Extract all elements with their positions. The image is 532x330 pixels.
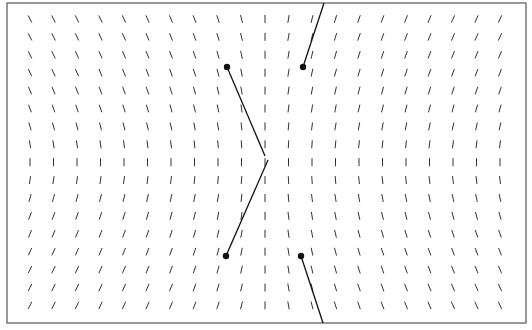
slope-dash bbox=[311, 266, 313, 274]
slope-dash bbox=[193, 15, 196, 22]
slope-dash bbox=[75, 51, 78, 58]
slope-dash bbox=[498, 33, 501, 40]
slope-dash bbox=[428, 284, 431, 291]
slope-dash bbox=[28, 248, 31, 255]
slope-dash bbox=[122, 51, 125, 58]
slope-dash bbox=[312, 122, 313, 130]
slope-dash bbox=[405, 51, 408, 59]
slope-dash bbox=[288, 105, 289, 113]
slope-dash bbox=[99, 123, 101, 131]
slope-dash bbox=[193, 266, 196, 274]
slope-dash bbox=[241, 194, 242, 202]
slope-dash bbox=[123, 87, 126, 95]
slope-dash bbox=[358, 33, 361, 41]
slope-dash bbox=[428, 248, 431, 256]
slope-dash bbox=[451, 302, 454, 309]
slope-dash bbox=[288, 284, 289, 292]
slope-dash bbox=[99, 212, 102, 220]
slope-dash bbox=[28, 15, 32, 22]
slope-dash bbox=[405, 302, 408, 309]
slope-dash bbox=[147, 194, 149, 202]
slope-dash bbox=[193, 69, 195, 77]
slope-dash bbox=[217, 105, 219, 113]
slope-dash bbox=[193, 284, 196, 292]
slope-dash bbox=[334, 266, 336, 274]
slope-dash bbox=[123, 248, 126, 255]
slope-dash bbox=[170, 248, 173, 256]
slope-dash bbox=[99, 230, 102, 237]
slope-dash bbox=[358, 51, 360, 59]
slope-dash bbox=[453, 140, 454, 148]
slope-dash bbox=[475, 87, 478, 95]
slope-dash bbox=[288, 87, 289, 95]
slope-dash bbox=[217, 15, 219, 23]
slope-dash bbox=[405, 69, 408, 77]
slope-dash bbox=[217, 122, 218, 130]
slope-dash bbox=[406, 140, 407, 148]
slope-dash bbox=[28, 230, 31, 237]
slope-dash bbox=[498, 302, 501, 309]
slope-dash bbox=[500, 140, 501, 148]
slope-dash bbox=[171, 176, 172, 184]
slope-dash bbox=[334, 284, 336, 292]
slope-dash bbox=[311, 302, 313, 310]
slope-dash bbox=[358, 248, 360, 256]
slope-dash bbox=[29, 140, 30, 148]
slope-dash bbox=[75, 302, 79, 309]
slope-dash bbox=[99, 194, 101, 202]
slope-dash bbox=[381, 302, 384, 309]
slope-dash bbox=[381, 15, 384, 22]
slope-dash bbox=[193, 51, 196, 59]
slope-dash bbox=[311, 87, 313, 95]
slope-dash bbox=[288, 266, 289, 274]
slope-dash bbox=[475, 230, 478, 238]
trajectory-line bbox=[227, 67, 265, 156]
slope-dash bbox=[75, 33, 79, 40]
initial-point-dot bbox=[298, 253, 304, 259]
slope-dash bbox=[52, 194, 54, 202]
slope-dash bbox=[170, 69, 173, 77]
direction-field-diagram bbox=[0, 0, 532, 330]
slope-dash bbox=[52, 212, 55, 220]
slope-dash bbox=[334, 69, 336, 77]
slope-dash bbox=[452, 212, 454, 220]
slope-dash bbox=[358, 302, 361, 310]
slope-dash bbox=[28, 69, 31, 76]
slope-dash bbox=[429, 194, 431, 202]
slope-dash bbox=[241, 87, 242, 95]
slope-dash bbox=[52, 302, 56, 309]
slope-dash bbox=[194, 176, 195, 184]
slope-dash bbox=[146, 51, 149, 58]
slope-dash bbox=[499, 87, 502, 95]
slope-dash bbox=[358, 15, 361, 23]
slope-dash bbox=[451, 33, 454, 40]
initial-point-dot bbox=[223, 253, 229, 259]
slope-dash bbox=[146, 212, 148, 220]
slope-dash bbox=[146, 105, 148, 113]
slope-dash bbox=[476, 122, 478, 130]
slope-dash bbox=[499, 69, 502, 76]
slope-dash bbox=[122, 266, 125, 273]
slope-dash bbox=[451, 284, 454, 291]
slope-dash bbox=[194, 140, 195, 148]
slope-dash bbox=[311, 248, 313, 256]
slope-dash bbox=[382, 176, 383, 184]
initial-point-dot bbox=[300, 64, 306, 70]
slope-dash bbox=[146, 266, 149, 273]
slope-dash bbox=[147, 176, 148, 184]
slope-dash bbox=[122, 302, 125, 309]
slope-dash bbox=[358, 230, 360, 238]
slope-dash bbox=[381, 230, 383, 238]
slope-dash bbox=[194, 194, 196, 202]
slope-dash bbox=[405, 33, 408, 40]
slope-dash bbox=[288, 122, 289, 130]
slope-dash bbox=[76, 176, 77, 184]
slope-dash bbox=[75, 248, 78, 255]
slope-dash bbox=[311, 105, 312, 113]
slope-dash bbox=[123, 123, 125, 131]
slope-dash bbox=[123, 194, 125, 202]
slope-dash bbox=[194, 105, 196, 113]
slope-dash bbox=[123, 140, 124, 148]
trajectory-lower-left bbox=[223, 160, 268, 259]
slope-dash bbox=[241, 15, 243, 23]
